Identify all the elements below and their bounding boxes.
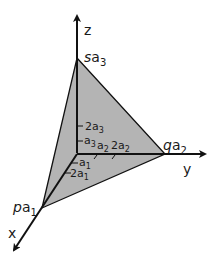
x-intercept-label: pa1 bbox=[12, 199, 37, 218]
crystal-plane-diagram: z y x sa3 qa2 pa1 2a3 a3 a2 2a2 a1 2a1 bbox=[0, 0, 218, 266]
z-axis-label: z bbox=[84, 22, 91, 38]
x-axis-label: x bbox=[8, 225, 16, 241]
z-intercept-label: sa3 bbox=[84, 49, 106, 68]
y-axis-label: y bbox=[183, 161, 191, 177]
